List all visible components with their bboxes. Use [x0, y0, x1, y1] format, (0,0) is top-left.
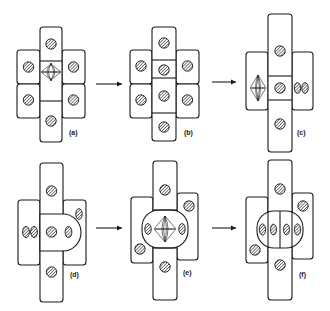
panel-e: (e)	[131, 161, 198, 300]
nucleus	[46, 186, 56, 196]
panel-label: (b)	[184, 129, 193, 137]
nucleus	[31, 226, 38, 237]
nucleus	[46, 227, 56, 237]
nucleus	[275, 46, 285, 56]
panel-a: (a)	[17, 27, 85, 142]
nucleus	[68, 62, 78, 72]
cell-right	[292, 52, 313, 110]
nucleus	[23, 226, 30, 237]
nucleus	[145, 224, 151, 235]
nucleus	[302, 83, 308, 94]
nucleus	[159, 122, 169, 132]
panel-label: (f)	[299, 271, 306, 279]
nucleus	[159, 91, 169, 101]
nucleus	[135, 244, 145, 254]
nucleus	[136, 61, 146, 71]
nucleus	[250, 245, 260, 255]
nucleus	[23, 62, 33, 72]
nucleus	[159, 65, 169, 75]
panel-label: (e)	[183, 269, 192, 277]
panel-c: (c)	[246, 14, 313, 152]
nucleus	[159, 38, 169, 48]
nucleus	[65, 226, 72, 237]
nucleus	[76, 209, 82, 220]
nucleus	[179, 224, 185, 235]
nucleus	[271, 224, 277, 235]
nucleus	[184, 201, 194, 211]
panel-b: (b)	[130, 27, 199, 141]
nucleus	[68, 95, 78, 105]
nucleus	[294, 224, 300, 235]
nucleus	[275, 119, 285, 129]
nucleus	[182, 95, 192, 105]
nucleus	[46, 267, 56, 277]
nucleus	[275, 83, 285, 93]
nucleus	[275, 184, 285, 194]
nucleus	[23, 95, 33, 105]
nucleus	[294, 83, 300, 94]
panel-d: (d)	[18, 163, 86, 302]
panel-label: (a)	[69, 129, 78, 137]
nucleus	[275, 260, 285, 270]
nucleus	[259, 224, 265, 235]
nucleus	[182, 61, 192, 71]
nucleus	[298, 201, 308, 211]
nucleus	[284, 224, 290, 235]
nucleus	[46, 116, 56, 126]
nucleus	[160, 262, 170, 272]
nucleus	[136, 95, 146, 105]
panel-f: (f)	[246, 160, 313, 300]
cell-division-diagram: (a) (b)	[0, 0, 330, 311]
panel-label: (c)	[297, 129, 306, 137]
nucleus	[46, 39, 56, 49]
panel-label: (d)	[70, 271, 79, 279]
nucleus	[160, 185, 170, 195]
